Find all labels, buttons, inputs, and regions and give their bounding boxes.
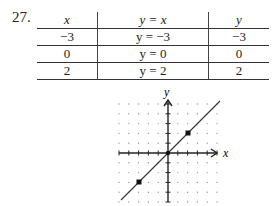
coordinate-graph: y x bbox=[0, 0, 277, 206]
graph-line bbox=[121, 101, 220, 200]
point-marker bbox=[137, 180, 142, 185]
origin-marker bbox=[166, 151, 170, 155]
point-marker bbox=[186, 131, 191, 136]
x-axis-label: x bbox=[222, 146, 229, 160]
y-axis-label: y bbox=[163, 85, 170, 99]
